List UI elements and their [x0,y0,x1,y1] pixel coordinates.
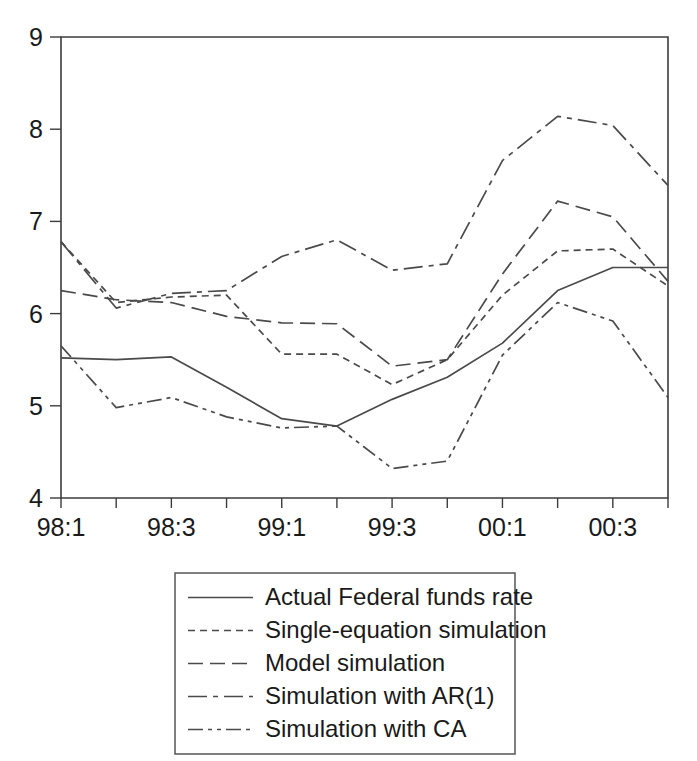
legend-item-label-2: Model simulation [265,649,445,676]
series-group [61,116,668,468]
y-tick-label: 8 [29,115,43,143]
series-line-0 [61,268,668,427]
y-tick-label: 4 [29,484,43,512]
legend-item-label-3: Simulation with AR(1) [265,682,494,709]
y-tick-label: 9 [29,23,43,51]
x-tick-label: 98:3 [147,513,196,541]
y-tick-label: 6 [29,300,43,328]
x-axis-ticks: 98:198:399:199:300:100:3 [37,498,668,541]
x-tick-label: 00:1 [478,513,527,541]
legend-item-label-0: Actual Federal funds rate [265,583,533,610]
x-tick-label: 99:1 [257,513,306,541]
y-tick-label: 5 [29,392,43,420]
y-axis-ticks: 456789 [29,23,61,512]
x-tick-label: 98:1 [37,513,86,541]
legend-item-label-1: Single-equation simulation [265,616,547,643]
line-chart: 456789 98:198:399:199:300:100:3 Actual F… [0,0,697,761]
axis-frame [61,37,668,498]
y-tick-label: 7 [29,207,43,235]
x-tick-label: 00:3 [588,513,637,541]
legend-item-label-4: Simulation with CA [265,715,466,742]
series-line-1 [61,242,668,385]
series-line-2 [61,201,668,366]
figure-container: 456789 98:198:399:199:300:100:3 Actual F… [0,0,697,761]
x-tick-label: 99:3 [368,513,417,541]
series-line-4 [61,303,668,469]
series-line-3 [61,116,668,308]
chart-legend: Actual Federal funds rateSingle-equation… [175,573,547,754]
